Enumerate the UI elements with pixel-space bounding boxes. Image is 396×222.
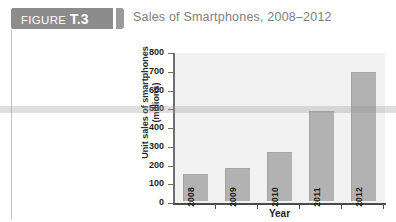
bar-label-2011: 2011 [312, 187, 322, 206]
y-tick-label-100: 100 [149, 178, 164, 188]
y-tick-300: 300 [168, 147, 173, 148]
y-tick-label-0: 0 [159, 197, 164, 207]
y-tick-label-200: 200 [149, 160, 164, 170]
y-tick-label-400: 400 [149, 122, 164, 132]
bar-chart: Unit sales of smartphones (millions) 0 1… [124, 48, 389, 220]
y-tick-label-700: 700 [149, 66, 164, 76]
y-tick-label-300: 300 [149, 141, 164, 151]
figure-label-number: T.3 [70, 11, 89, 27]
y-tick-500: 500 [168, 109, 173, 110]
y-tick-label-600: 600 [149, 85, 164, 95]
figure-label: FIGURE T.3 [21, 11, 88, 27]
bar-2012: 2012 [351, 72, 376, 201]
y-tick-200: 200 [168, 166, 173, 167]
y-tick-600: 600 [168, 91, 173, 92]
y-tick-label-500: 500 [149, 103, 164, 113]
y-tick-700: 700 [168, 72, 173, 73]
figure-screenshot: FIGURE T.3 Sales of Smartphones, 2008–20… [0, 0, 396, 222]
bar-2010: 2010 [267, 152, 292, 201]
plot-area: 0 100 200 300 400 500 600 700 800 2008 2… [173, 53, 385, 203]
y-tick-100: 100 [168, 184, 173, 185]
figure-title: Sales of Smartphones, 2008–2012 [133, 10, 332, 24]
figure-banner-notch [113, 8, 124, 29]
bar-label-2010: 2010 [270, 187, 280, 207]
y-tick-label-800: 800 [149, 47, 164, 57]
bar-label-2009: 2009 [228, 187, 238, 207]
figure-label-prefix: FIGURE [21, 14, 70, 26]
y-tick-400: 400 [168, 128, 173, 129]
figure-banner: FIGURE T.3 [11, 8, 113, 29]
y-tick-0: 0 [168, 203, 173, 204]
bar-label-2012: 2012 [354, 187, 364, 207]
page-left-rule [11, 29, 12, 220]
y-tick-800: 800 [168, 53, 173, 54]
bar-2009: 2009 [225, 168, 250, 201]
bar-2008: 2008 [183, 174, 208, 201]
bar-label-2008: 2008 [186, 187, 196, 207]
bar-2011: 2011 [309, 111, 334, 201]
y-axis-line [173, 53, 175, 204]
x-axis-title: Year [173, 208, 386, 219]
